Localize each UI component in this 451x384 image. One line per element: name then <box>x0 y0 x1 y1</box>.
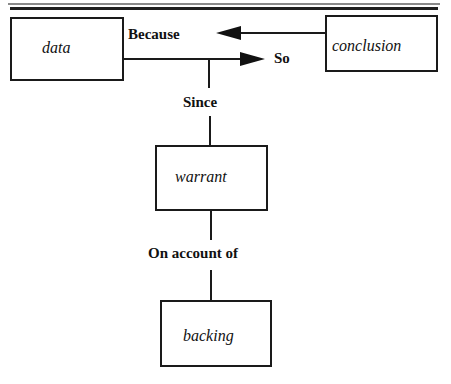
data-box: data <box>10 17 124 81</box>
warrant-box: warrant <box>155 145 268 211</box>
conclusion-box: conclusion <box>325 15 438 72</box>
since-label: Since <box>183 94 217 111</box>
data-label: data <box>42 39 70 57</box>
backing-box: backing <box>160 300 272 367</box>
warrant-label: warrant <box>175 168 227 186</box>
so-arrowhead-icon <box>240 52 265 66</box>
on-account-of-label: On account of <box>148 245 238 262</box>
conclusion-label: conclusion <box>332 37 401 55</box>
backing-label: backing <box>183 327 234 345</box>
so-label: So <box>274 50 290 67</box>
because-arrowhead-icon <box>216 26 241 40</box>
because-label: Because <box>128 26 180 43</box>
